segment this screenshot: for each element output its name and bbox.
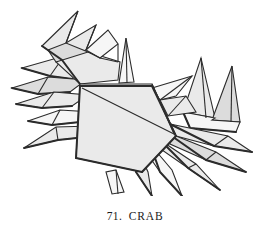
figure-caption-number: 71. xyxy=(107,210,123,222)
figure-page: .pl { fill:#eaeaea; stroke:#2b2b2b; stro… xyxy=(0,0,257,231)
crab-origami-illustration: .pl { fill:#eaeaea; stroke:#2b2b2b; stro… xyxy=(0,0,257,196)
figure-caption: 71. CRAB xyxy=(0,198,257,231)
figure-caption-title: CRAB xyxy=(129,210,164,222)
